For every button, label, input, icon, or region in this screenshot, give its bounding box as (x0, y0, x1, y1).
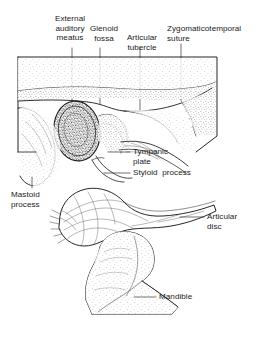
label-articular-disc: Articular disc (207, 212, 257, 231)
label-glenoid-fossa: Glenoid fossa (84, 24, 124, 43)
anatomy-illustration (0, 0, 259, 350)
tubercle-stipple (124, 110, 196, 152)
label-mastoid-process: Mastoid process (11, 190, 65, 209)
label-mandible: Mandible (159, 292, 215, 302)
label-articular-tubercle: Articular tubercle (120, 33, 164, 52)
label-styloid-process: Styloid process (133, 168, 213, 178)
anatomy-figure: External auditory meatus Glenoid fossa A… (0, 0, 259, 350)
styloid-process (92, 156, 132, 182)
label-zygomaticotemporal-suture: Zygomaticotemporal suture (167, 24, 259, 43)
label-tympanic-plate: Tympanic plate (133, 147, 193, 166)
